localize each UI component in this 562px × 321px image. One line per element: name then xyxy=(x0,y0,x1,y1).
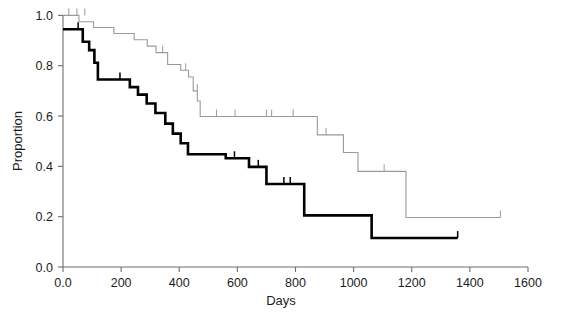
survival-curve-group-thick-black xyxy=(63,29,458,238)
y-tick-label: 0.4 xyxy=(36,160,53,174)
x-tick-label: 1000 xyxy=(340,276,368,290)
x-tick-label: 1600 xyxy=(514,276,542,290)
x-tick-label: 1400 xyxy=(456,276,484,290)
y-tick-label: 0.8 xyxy=(36,59,53,73)
x-axis-title: Days xyxy=(266,293,296,308)
x-tick-label: 200 xyxy=(111,276,132,290)
y-tick-label: 0.2 xyxy=(36,210,53,224)
curves-layer xyxy=(63,15,500,238)
kaplan-meier-figure: 0.020040060080010001200140016000.00.20.4… xyxy=(0,0,562,321)
y-tick-label: 1.0 xyxy=(36,9,53,23)
x-tick-label: 400 xyxy=(169,276,190,290)
y-axis-title: Proportion xyxy=(10,111,25,171)
x-tick-label: 600 xyxy=(227,276,248,290)
y-tick-label: 0.6 xyxy=(36,110,53,124)
x-tick-label: 0.0 xyxy=(54,276,71,290)
censor-marks-layer xyxy=(69,8,501,238)
x-tick-label: 1200 xyxy=(398,276,426,290)
y-tick-label: 0.0 xyxy=(36,261,53,275)
survival-curve-group-thin-grey xyxy=(63,15,500,217)
survival-plot-svg: 0.020040060080010001200140016000.00.20.4… xyxy=(0,0,562,321)
x-tick-label: 800 xyxy=(285,276,306,290)
tick-labels-layer: 0.020040060080010001200140016000.00.20.4… xyxy=(36,9,542,290)
